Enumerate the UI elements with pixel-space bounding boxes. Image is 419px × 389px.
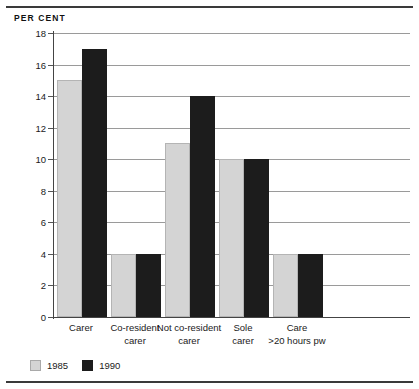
bar-1985 <box>165 143 190 317</box>
bar-1985 <box>273 254 298 317</box>
category-label-line: Care <box>255 322 339 335</box>
legend-item: 1985 <box>30 360 68 371</box>
chart-legend: 19851990 <box>30 360 120 371</box>
bar-1990 <box>136 254 161 317</box>
bar-group <box>109 33 163 317</box>
bar-1990 <box>190 96 215 317</box>
bar-1990 <box>244 159 269 317</box>
top-divider <box>6 6 413 8</box>
gridline <box>54 317 410 318</box>
bottom-divider <box>6 381 413 383</box>
chart-figure: PER CENT 024681012141618 CarerCo-residen… <box>0 0 419 389</box>
y-axis-tick-label: 16 <box>2 59 46 70</box>
bar-series-container <box>54 33 324 317</box>
bar-1990 <box>82 49 107 317</box>
y-axis-tick-label: 10 <box>2 154 46 165</box>
legend-item: 1990 <box>82 360 120 371</box>
bar-1985 <box>57 80 82 317</box>
y-axis-tick-label: 8 <box>2 185 46 196</box>
bar-group <box>217 33 271 317</box>
bar-1985 <box>111 254 136 317</box>
bar-1990 <box>298 254 323 317</box>
y-axis-tick-label: 4 <box>2 248 46 259</box>
category-label-line: >20 hours pw <box>255 335 339 348</box>
bar-1985 <box>219 159 244 317</box>
bar-group <box>163 33 217 317</box>
y-axis-tick-label: 6 <box>2 217 46 228</box>
bar-group <box>55 33 109 317</box>
x-axis-category-labels: CarerCo-residentcarerNot co-residentcare… <box>54 322 334 362</box>
y-axis-tick-label: 14 <box>2 91 46 102</box>
y-axis-tick-label: 0 <box>2 312 46 323</box>
y-axis-tick-label: 2 <box>2 280 46 291</box>
light-gray-swatch <box>30 360 41 371</box>
y-axis-tick-label: 18 <box>2 28 46 39</box>
x-axis-category-label: Care>20 hours pw <box>255 322 339 347</box>
y-axis-tick-label: 12 <box>2 122 46 133</box>
bar-group <box>271 33 325 317</box>
black-swatch <box>82 360 93 371</box>
legend-label: 1985 <box>47 360 68 371</box>
legend-label: 1990 <box>99 360 120 371</box>
